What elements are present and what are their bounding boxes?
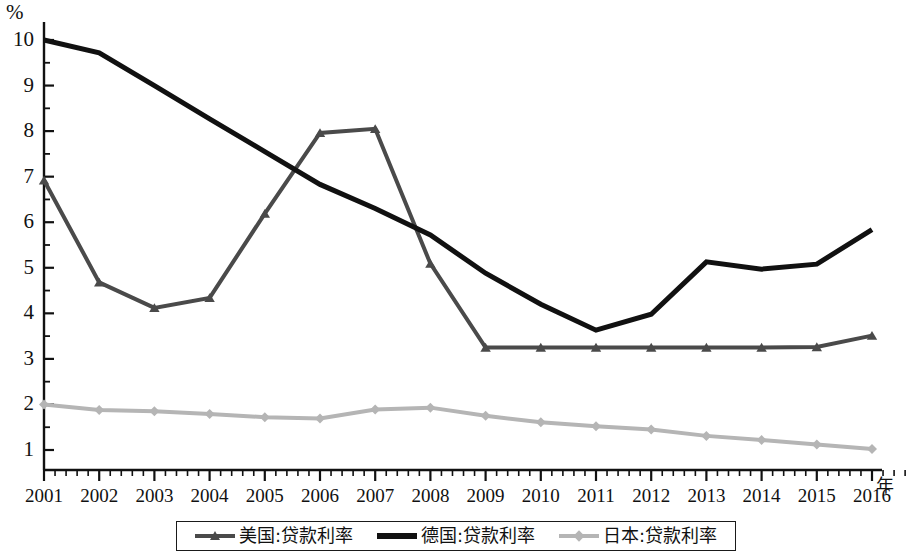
series-marker-2 — [812, 440, 822, 450]
legend-label-1: 德国:贷款利率 — [421, 527, 535, 545]
y-axis-unit-label: % — [6, 2, 24, 23]
series-marker-2 — [149, 406, 159, 416]
y-axis-tick-label: 9 — [4, 75, 34, 96]
series-marker-2 — [260, 412, 270, 422]
y-axis-tick-label: 7 — [4, 166, 34, 187]
chart-page: % 年 123456789102001200220032004200520062… — [0, 0, 910, 553]
legend-label-2: 日本:贷款利率 — [603, 527, 717, 545]
legend-label-0: 美国:贷款利率 — [239, 527, 353, 545]
series-line-0 — [44, 129, 872, 348]
x-axis-tick-label: 2009 — [456, 486, 516, 505]
series-marker-2 — [867, 444, 877, 454]
series-marker-2 — [39, 399, 49, 409]
x-axis-tick-label: 2016 — [842, 486, 902, 505]
x-axis-tick-label: 2005 — [235, 486, 295, 505]
x-axis-tick-label: 2010 — [511, 486, 571, 505]
series-line-2 — [44, 404, 872, 449]
y-axis-tick-label: 2 — [4, 393, 34, 414]
series-marker-2 — [757, 435, 767, 445]
series-marker-2 — [536, 417, 546, 427]
series-marker-2 — [370, 404, 380, 414]
series-marker-2 — [205, 409, 215, 419]
x-axis-tick-label: 2001 — [14, 486, 74, 505]
chart-plot-area: % 年 123456789102001200220032004200520062… — [0, 0, 910, 510]
legend-item-0[interactable]: 美国:贷款利率 — [195, 527, 353, 545]
series-line-1 — [44, 40, 872, 330]
y-axis-tick-label: 3 — [4, 348, 34, 369]
x-axis-tick-label: 2011 — [566, 486, 626, 505]
legend-item-2[interactable]: 日本:贷款利率 — [559, 527, 717, 545]
x-axis-tick-label: 2006 — [290, 486, 350, 505]
y-axis-tick-label: 5 — [4, 257, 34, 278]
x-axis-tick-label: 2015 — [787, 486, 847, 505]
series-marker-2 — [701, 431, 711, 441]
x-axis-tick-label: 2003 — [124, 486, 184, 505]
series-marker-2 — [591, 421, 601, 431]
x-axis-tick-label: 2014 — [732, 486, 792, 505]
line-chart-svg — [0, 0, 910, 510]
x-axis-tick-label: 2007 — [345, 486, 405, 505]
x-axis-tick-label: 2004 — [180, 486, 240, 505]
x-axis-tick-label: 2013 — [676, 486, 736, 505]
legend-swatch-icon-0 — [195, 529, 235, 543]
y-axis-tick-label: 1 — [4, 439, 34, 460]
y-axis-tick-label: 4 — [4, 302, 34, 323]
legend-swatch-icon-2 — [559, 529, 599, 543]
series-marker-2 — [315, 414, 325, 424]
series-marker-0 — [425, 259, 435, 268]
series-marker-2 — [425, 403, 435, 413]
x-axis-tick-label: 2012 — [621, 486, 681, 505]
series-marker-2 — [481, 411, 491, 421]
x-axis-tick-label: 2008 — [400, 486, 460, 505]
legend-item-1[interactable]: 德国:贷款利率 — [377, 527, 535, 545]
y-axis-tick-label: 10 — [4, 29, 34, 50]
y-axis-tick-label: 8 — [4, 120, 34, 141]
chart-legend: 美国:贷款利率德国:贷款利率日本:贷款利率 — [176, 521, 736, 551]
x-axis-tick-label: 2002 — [69, 486, 129, 505]
series-marker-2 — [94, 405, 104, 415]
legend-swatch-icon-1 — [377, 529, 417, 543]
y-axis-tick-label: 6 — [4, 211, 34, 232]
series-marker-2 — [646, 425, 656, 435]
